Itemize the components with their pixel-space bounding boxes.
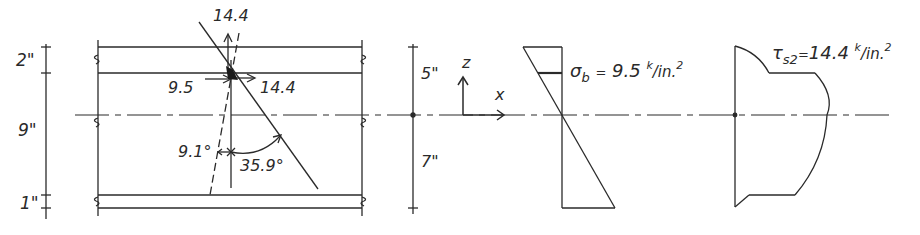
per-square-inch-unit: /in. (653, 63, 677, 81)
kip-unit: k (855, 41, 861, 54)
vertical-shear-label: 14.4 (213, 8, 249, 24)
normal-stress-label: 9.5 (168, 80, 193, 96)
large-angle-label: 35.9° (240, 158, 284, 174)
bottom-flange-dimension: 1" (20, 195, 39, 212)
top-flange-dimension: 2" (16, 52, 35, 69)
kip-unit: k (646, 59, 652, 72)
bending-subscript: b (581, 70, 589, 85)
tau-symbol: τ (772, 42, 783, 63)
x-axis-label: x (495, 87, 504, 103)
below-axis-dimension: 7" (421, 154, 439, 170)
exponent: 2 (676, 59, 683, 72)
horizontal-shear-label: 14.4 (260, 80, 296, 96)
shear-stress-diagram (733, 46, 829, 207)
web-dimension: 9" (18, 122, 37, 139)
equals-sign: = (595, 65, 606, 80)
sigma-symbol: σ (570, 60, 581, 81)
beam-stress-diagram: 2" 9" 1" 14.4 9.5 14.4 9.1° 35.9° 5" 7" … (0, 0, 920, 235)
shear-stress-value: 14.4 (809, 42, 849, 63)
bending-stress-value: 9.5 (612, 60, 641, 81)
exponent: 2 (884, 41, 891, 54)
small-angle-label: 9.1° (178, 144, 211, 160)
bending-stress-label: σb = 9.5 k/in.2 (570, 62, 683, 80)
above-axis-dimension: 5" (421, 66, 439, 82)
shear-subscript: s2 (783, 52, 798, 67)
equals-sign: = (798, 47, 809, 62)
section-dimension-line (41, 44, 51, 219)
per-square-inch-unit: /in. (861, 45, 885, 63)
diagram-linework (0, 0, 920, 235)
z-axis-label: z (462, 55, 470, 71)
shear-stress-label: τs2=14.4 k/in.2 (772, 44, 891, 62)
neutral-axis-dimension-line (408, 44, 418, 214)
